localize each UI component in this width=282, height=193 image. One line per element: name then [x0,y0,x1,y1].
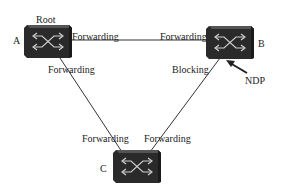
node-b-label: B [258,38,265,49]
root-label: Root [36,14,55,25]
switch-c-icon [113,150,161,183]
port-state-a-to-b: Forwarding [72,31,119,42]
ndp-arrow-icon [226,60,247,73]
switch-b-icon [206,26,254,59]
port-state-c-to-a: Forwarding [82,133,129,144]
port-state-b-to-c: Blocking [172,64,209,75]
port-state-a-to-c: Forwarding [48,64,95,75]
port-state-b-to-a: Forwarding [160,31,207,42]
port-state-c-to-b: Forwarding [144,133,191,144]
switch-a-icon [24,25,72,58]
ndp-label: NDP [245,75,265,86]
node-a-label: A [13,35,20,46]
topology-canvas [0,0,282,193]
node-c-label: C [100,163,107,174]
